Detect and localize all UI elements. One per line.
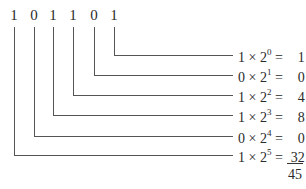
binary-digit: 0 [29,7,39,24]
connector-line [114,55,233,56]
place-value-row: 1 × 23 =8 [238,106,305,125]
connector-line [94,75,233,76]
place-value-row: 1 × 20 =1 [238,46,305,65]
connector-line [14,155,233,156]
connector-line [114,27,115,55]
connector-line [53,27,54,115]
connector-line [14,27,15,155]
sum-line [287,163,303,164]
total-value: 45 [288,167,302,183]
binary-digit: 1 [9,7,19,24]
binary-digit: 1 [109,7,119,24]
place-value-row: 1 × 25 =32 [238,146,305,165]
connector-line [73,27,74,95]
binary-digit: 1 [48,7,58,24]
connector-line [34,136,233,137]
connector-line [94,27,95,75]
place-value-row: 0 × 21 =0 [238,66,305,85]
binary-digit: 0 [89,7,99,24]
place-value-row: 0 × 24 =0 [238,127,305,146]
connector-line [73,95,233,96]
binary-digit: 1 [68,7,78,24]
place-value-row: 1 × 22 =4 [238,86,305,105]
connector-line [34,27,35,136]
connector-line [53,115,233,116]
